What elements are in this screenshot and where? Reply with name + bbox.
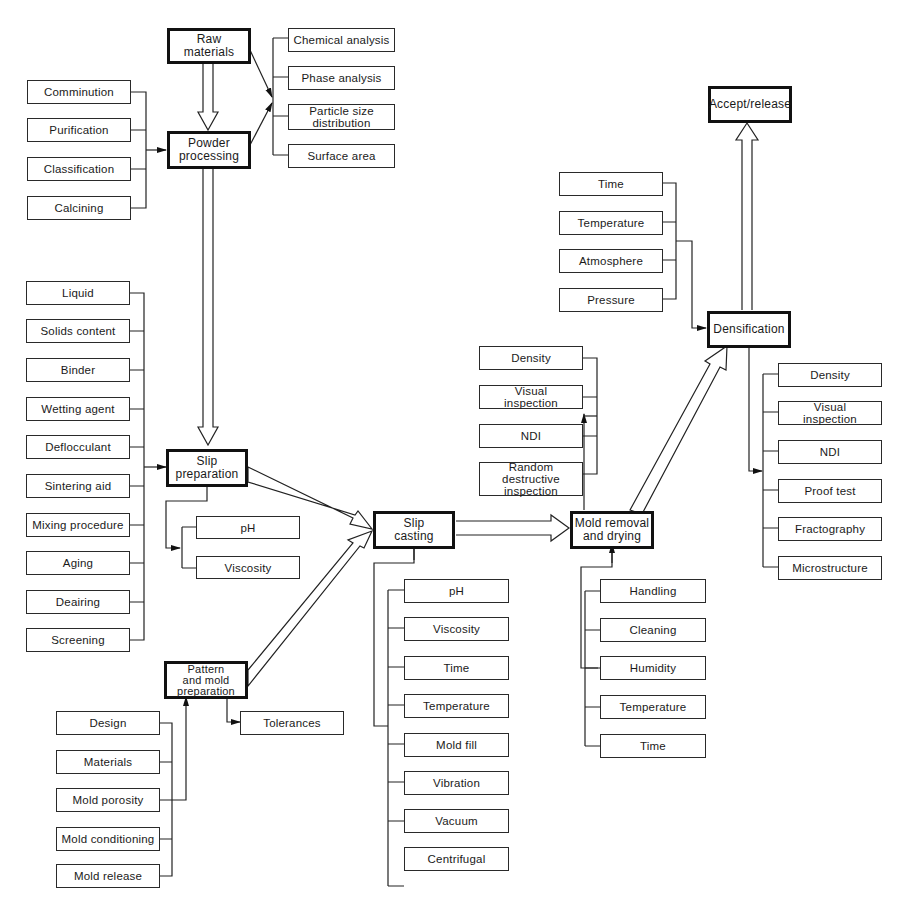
- box-label: Chemical analysis: [293, 34, 389, 46]
- box-label: Random destructive inspection: [502, 461, 560, 497]
- box-label: Deairing: [56, 596, 100, 608]
- slip-prep-input-box: Liquid: [26, 281, 130, 305]
- raw-test-box: Chemical analysis: [288, 28, 395, 52]
- box-label: Screening: [51, 634, 105, 646]
- box-label: Vibration: [433, 777, 480, 789]
- box-label: Particle size distribution: [309, 105, 374, 129]
- box-label: Visual inspection: [504, 385, 558, 409]
- box-label: pH: [449, 585, 464, 597]
- box-label: Sintering aid: [45, 480, 112, 492]
- mold-removal-output-box: Density: [479, 346, 583, 370]
- densification-output-box: NDI: [778, 440, 882, 464]
- box-label: Mixing procedure: [32, 519, 123, 531]
- densification-input-box: Time: [559, 172, 663, 196]
- slip-prep-input-box: Deairing: [26, 590, 130, 614]
- step-pattern-mold-preparation: Pattern and mold preparation: [164, 661, 248, 699]
- slip-prep-input-box: Wetting agent: [26, 397, 130, 421]
- box-label: Density: [810, 369, 850, 381]
- mold-removal-output-box: NDI: [479, 424, 583, 448]
- pattern-output-box: Tolerances: [240, 711, 344, 735]
- box-label: Binder: [61, 364, 95, 376]
- slip-prep-input-box: Aging: [26, 551, 130, 575]
- powder-input-box: Comminution: [27, 80, 131, 104]
- box-label: Viscosity: [225, 562, 272, 574]
- slip-prep-output-box: pH: [196, 516, 300, 539]
- casting-input-box: Mold fill: [404, 733, 509, 757]
- box-label: Aging: [63, 557, 93, 569]
- densification-output-box: Microstructure: [778, 556, 882, 580]
- step-label: Raw materials: [184, 33, 234, 59]
- casting-input-box: pH: [404, 579, 509, 603]
- box-label: Comminution: [44, 86, 114, 98]
- hollow-arrow-casting-to-moldremoval: [456, 515, 569, 541]
- box-label: Visual inspection: [803, 401, 857, 425]
- box-label: Calcining: [54, 202, 103, 214]
- slip-prep-input-box: Binder: [26, 358, 130, 382]
- pattern-input-box: Materials: [56, 750, 160, 774]
- mold-removal-input-box: Time: [600, 734, 706, 758]
- box-label: Mold porosity: [73, 794, 144, 806]
- hollow-arrow-densification-to-accept: [736, 123, 758, 310]
- pattern-input-box: Mold conditioning: [56, 827, 160, 851]
- mold-removal-input-box: Humidity: [600, 656, 706, 680]
- hollow-arrow-moldremoval-to-densification: [630, 346, 727, 514]
- box-label: Tolerances: [263, 717, 321, 729]
- pattern-input-box: Mold porosity: [56, 788, 160, 812]
- box-label: Mold conditioning: [62, 833, 155, 845]
- box-label: Wetting agent: [41, 403, 114, 415]
- box-label: Time: [598, 178, 624, 190]
- step-label: Powder processing: [179, 137, 239, 163]
- powder-input-box: Classification: [27, 157, 131, 181]
- box-label: Surface area: [307, 150, 375, 162]
- box-label: Handling: [630, 585, 677, 597]
- step-label: Densification: [713, 323, 784, 336]
- densification-output-box: Visual inspection: [778, 401, 882, 425]
- mold-removal-output-box: Random destructive inspection: [479, 462, 583, 496]
- box-label: Design: [90, 717, 127, 729]
- step-label: Slip casting: [394, 517, 433, 543]
- hollow-arrow-raw-to-powder: [198, 63, 218, 130]
- casting-input-box: Viscosity: [404, 617, 509, 641]
- box-label: Atmosphere: [579, 255, 643, 267]
- mold-removal-input-box: Cleaning: [600, 618, 706, 642]
- box-label: Classification: [44, 163, 115, 175]
- box-label: pH: [240, 522, 255, 534]
- casting-input-box: Centrifugal: [404, 847, 509, 871]
- box-label: Solids content: [40, 325, 115, 337]
- box-label: Fractography: [795, 523, 865, 535]
- hollow-arrow-powder-to-slip: [198, 168, 218, 445]
- step-slip-preparation: Slip preparation: [166, 449, 248, 487]
- box-label: Centrifugal: [428, 853, 486, 865]
- hollow-arrow-pattern-to-casting: [248, 531, 372, 686]
- box-label: Mold release: [74, 870, 142, 882]
- box-label: Humidity: [630, 662, 676, 674]
- raw-test-box: Particle size distribution: [288, 104, 395, 130]
- box-label: Time: [640, 740, 666, 752]
- box-label: Cleaning: [630, 624, 677, 636]
- box-label: Vacuum: [435, 815, 478, 827]
- mold-removal-input-box: Handling: [600, 579, 706, 603]
- pattern-input-box: Mold release: [56, 864, 160, 888]
- mold-removal-input-box: Temperature: [600, 695, 706, 719]
- box-label: Density: [511, 352, 551, 364]
- step-powder-processing: Powder processing: [167, 131, 251, 169]
- densification-output-box: Proof test: [778, 479, 882, 503]
- densification-output-box: Density: [778, 363, 882, 387]
- raw-test-box: Surface area: [288, 144, 395, 168]
- box-label: Materials: [84, 756, 132, 768]
- slip-prep-input-box: Sintering aid: [26, 474, 130, 498]
- densification-output-box: Fractography: [778, 517, 882, 541]
- raw-test-box: Phase analysis: [288, 66, 395, 90]
- casting-input-box: Vibration: [404, 771, 509, 795]
- slip-prep-input-box: Deflocculant: [26, 435, 130, 459]
- slip-prep-input-box: Mixing procedure: [26, 513, 130, 537]
- step-mold-removal-drying: Mold removal and drying: [570, 511, 654, 549]
- box-label: Temperature: [423, 700, 490, 712]
- powder-input-box: Calcining: [27, 196, 131, 220]
- box-label: NDI: [521, 430, 541, 442]
- box-label: Phase analysis: [301, 72, 381, 84]
- box-label: Liquid: [62, 287, 94, 299]
- box-label: Temperature: [620, 701, 687, 713]
- step-densification: Densification: [707, 311, 791, 348]
- step-label: Slip preparation: [176, 455, 239, 481]
